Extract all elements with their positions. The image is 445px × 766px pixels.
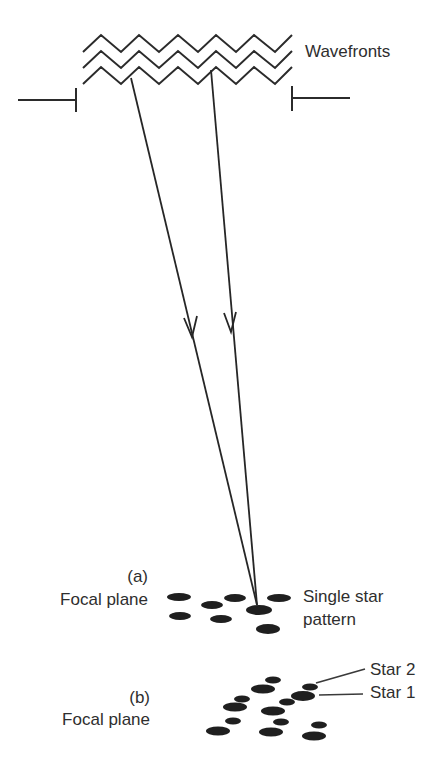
spot [224, 594, 246, 602]
wavefront-line-1 [83, 35, 292, 52]
spot [267, 594, 291, 602]
spot [223, 703, 247, 712]
spots-panel-a [167, 593, 291, 634]
focal-plane-b-label: Focal plane [62, 710, 150, 729]
spot [273, 719, 289, 726]
spot [210, 615, 232, 623]
spot [251, 685, 275, 694]
spot [256, 624, 280, 634]
panel-a-label: (a) [127, 567, 148, 586]
spots-panel-b [206, 677, 327, 741]
spot [302, 732, 326, 741]
star1-label: Star 1 [370, 683, 415, 702]
wavefront-line-3 [83, 67, 292, 84]
wavefront-line-2 [83, 51, 292, 68]
optics-diagram: Wavefronts (a) Focal plane Single star p… [0, 0, 445, 766]
ray-left [131, 78, 257, 605]
star2-label: Star 2 [370, 660, 415, 679]
spot [259, 728, 283, 737]
focal-plane-a-label: Focal plane [60, 590, 148, 609]
spot [225, 718, 241, 725]
spot [206, 727, 230, 736]
star1-leader-line [319, 694, 363, 695]
spot-star2 [302, 684, 318, 691]
ray-right [211, 70, 257, 605]
panel-b-label: (b) [129, 688, 150, 707]
star2-leader-line [316, 669, 365, 683]
wavefronts-label: Wavefronts [305, 42, 390, 61]
spot [265, 677, 281, 684]
spot-focal-point [246, 605, 272, 615]
spot-star1 [291, 691, 315, 701]
spot [234, 696, 250, 703]
wavefronts-group [83, 35, 292, 84]
spot [261, 707, 285, 716]
spot [311, 722, 327, 729]
aperture-stop-right [292, 86, 350, 111]
single-star-label-line1: Single star [303, 587, 384, 606]
single-star-label-line2: pattern [303, 610, 356, 629]
spot [167, 593, 191, 601]
spot [169, 612, 191, 620]
aperture-stop-left [18, 88, 76, 112]
spot [279, 699, 295, 706]
spot [201, 601, 223, 609]
arrowhead-icon [224, 312, 236, 332]
